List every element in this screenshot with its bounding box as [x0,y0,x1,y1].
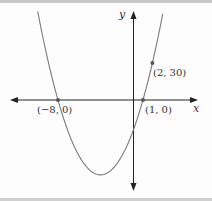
x-axis [10,97,198,103]
parabola-curve [38,11,163,175]
y-axis-down-arrow-icon [131,183,137,191]
y-axis-up-arrow-icon [131,11,137,19]
point-neg8-0 [56,98,60,102]
point-2-30 [150,61,154,65]
parabola-chart: y x (−8, 0) (1, 0) (2, 30) [0,0,212,201]
point-label-2-30: (2, 30) [153,67,186,78]
x-axis-left-arrow-icon [10,97,18,103]
data-points [56,61,154,102]
y-axis-label: y [118,8,126,21]
y-axis [131,11,137,191]
point-label-1-0: (1, 0) [145,104,172,115]
point-label-neg8-0: (−8, 0) [37,104,72,115]
point-1-0 [141,98,145,102]
x-axis-label: x [193,102,200,115]
